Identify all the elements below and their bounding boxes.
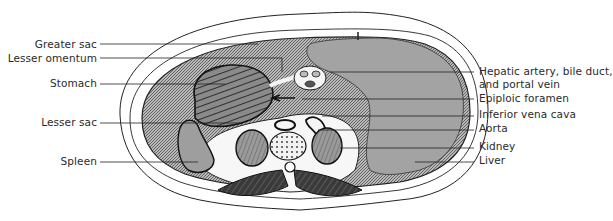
spinal-canal <box>285 162 295 172</box>
label-greater-sac: Greater sac <box>35 38 97 50</box>
label-stomach: Stomach <box>50 77 97 89</box>
label-kidney: Kidney <box>479 140 515 152</box>
label-lesser-sac: Lesser sac <box>41 116 97 128</box>
label-aorta: Aorta <box>479 122 508 134</box>
label-liver: Liver <box>479 154 505 166</box>
inferior-vena-cava <box>275 120 295 130</box>
label-spleen: Spleen <box>61 155 97 167</box>
label-hepatic-triad-line2: and portal vein <box>479 78 560 90</box>
kidney-left <box>236 130 268 166</box>
vertebral-body <box>270 132 306 160</box>
label-epiploic-foramen: Epiploic foramen <box>479 92 569 104</box>
kidney-right <box>312 128 342 164</box>
label-hepatic-triad: Hepatic artery, bile duct, <box>479 65 613 77</box>
label-lesser-omentum: Lesser omentum <box>8 52 97 64</box>
label-inferior-vena-cava: Inferior vena cava <box>479 108 576 120</box>
